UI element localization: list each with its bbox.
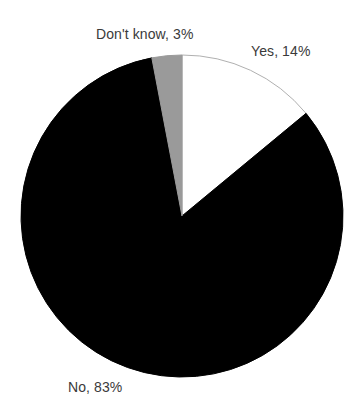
pie-chart-figure: Don't know, 3% Yes, 14% No, 83%: [0, 0, 358, 415]
pie-label-dont-know: Don't know, 3%: [96, 26, 193, 42]
pie-label-no: No, 83%: [68, 379, 122, 395]
pie-slice-group: [21, 55, 343, 377]
pie-label-yes: Yes, 14%: [251, 43, 310, 59]
pie-chart-canvas: [0, 0, 358, 415]
